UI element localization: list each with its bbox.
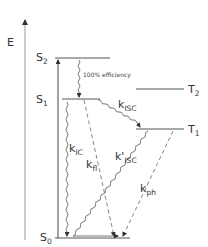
label-t1: T1 [187,123,200,138]
energy-axis: E [7,20,25,240]
k-ph-dashed-arrow [123,131,173,236]
label-s0: S0 [40,231,52,246]
label-k-fl: kfl [86,158,97,173]
label-s2: S2 [36,51,48,66]
jablonski-diagram: E S2 S1 S0 T2 T1 100% efficiency kIC kfl… [0,0,208,247]
label-k-isc: kISC [118,98,137,113]
k-prime-isc-wavy-arrow [73,131,148,236]
label-k-ic: kIC [69,142,83,157]
s2-s1-relaxation-wavy [78,60,80,97]
k-ic-wavy-arrow [66,102,68,236]
axis-label-e: E [7,36,14,49]
state-labels: S2 S1 S0 T2 T1 [36,51,200,246]
label-s1: S1 [36,93,48,108]
label-t2: T2 [187,83,200,98]
efficiency-note: 100% efficiency [83,71,131,79]
